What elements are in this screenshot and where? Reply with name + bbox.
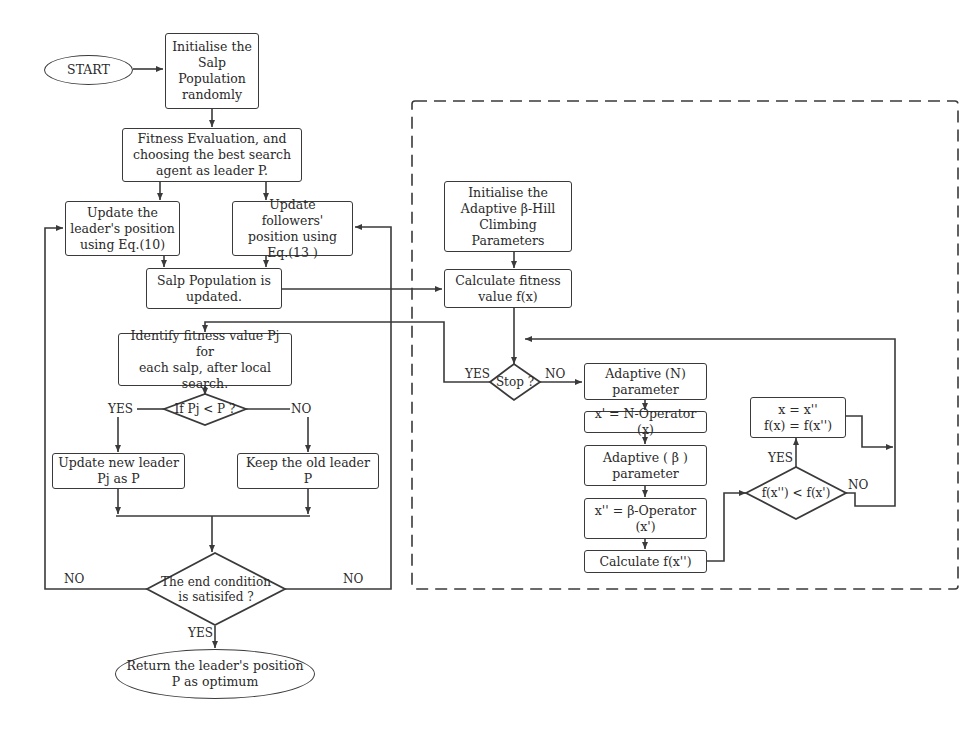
decision-pj-no-label: NO — [291, 402, 311, 416]
compare-no-label: NO — [848, 478, 868, 492]
end-condition-label: The end condition is satisifed ? — [160, 574, 272, 606]
start-terminal: START — [44, 55, 133, 85]
return-terminal: Return the leader's position P as optimu… — [115, 649, 315, 699]
init-params-box: Initialise the Adaptive β-Hill Climbing … — [444, 181, 572, 252]
keep-old-leader-box: Keep the old leader P — [237, 453, 379, 489]
stop-yes-label: YES — [465, 367, 490, 381]
update-followers-box: Update followers' position using Eq.(13 … — [232, 201, 353, 256]
calc-fxpp-box: Calculate f(x'') — [584, 550, 707, 573]
stop-label: Stop ? — [492, 375, 538, 390]
beta-operator-box: x'' = β-Operator (x') — [584, 498, 707, 539]
end-yes-label: YES — [188, 626, 213, 640]
decision-pj-label: If Pj < P ? — [168, 401, 242, 417]
stop-no-label: NO — [545, 367, 565, 381]
update-leader-box: Update the leader's position using Eq.(1… — [65, 201, 180, 256]
adaptive-beta-box: Adaptive ( β ) parameter — [584, 445, 707, 486]
identify-fitness-box: Identify fitness value Pj for each salp,… — [118, 333, 292, 386]
decision-pj-yes-label: YES — [108, 402, 133, 416]
adaptive-n-box: Adaptive (N) parameter — [584, 363, 707, 400]
population-updated-box: Salp Population is updated. — [146, 268, 282, 309]
calc-fitness-box: Calculate fitness value f(x) — [444, 269, 572, 308]
end-no-right-label: NO — [343, 572, 363, 586]
compare-label: f(x'') < f(x') — [752, 485, 840, 501]
update-new-leader-box: Update new leader Pj as P — [52, 453, 185, 489]
n-operator-box: x' = N-Operator (x) — [584, 411, 707, 433]
end-no-left-label: NO — [64, 572, 84, 586]
assign-box: x = x'' f(x) = f(x'') — [750, 397, 846, 438]
compare-yes-label: YES — [768, 451, 793, 465]
fitness-evaluation-box: Fitness Evaluation, and choosing the bes… — [122, 128, 302, 182]
init-population-box: Initialise the Salp Population randomly — [165, 33, 259, 109]
